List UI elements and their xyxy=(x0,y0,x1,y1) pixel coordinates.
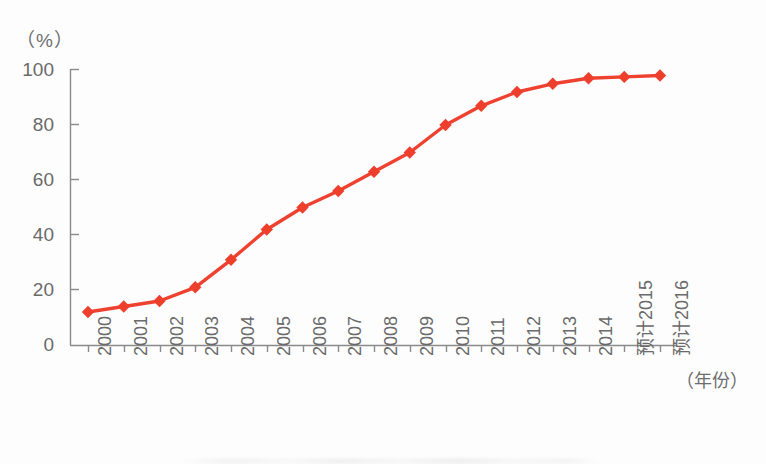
x-axis-tick-label: 2010 xyxy=(453,316,474,356)
page-edge-smudge xyxy=(180,458,600,464)
chart-root: （%） （年份） 100806040200 200020012002200320… xyxy=(0,0,766,464)
x-axis-tick-label: 2000 xyxy=(95,316,116,356)
x-axis-tick-label: 2009 xyxy=(417,316,438,356)
y-axis-tick-label: 20 xyxy=(8,279,54,301)
x-axis-tick-label: 2012 xyxy=(524,316,545,356)
chart-background xyxy=(0,0,766,464)
x-axis-tick-label: 2011 xyxy=(488,317,509,356)
x-axis-tick-label: 2005 xyxy=(274,316,295,356)
y-axis-tick-label: 100 xyxy=(8,59,54,81)
y-axis-tick-label: 80 xyxy=(8,114,54,136)
x-axis-tick-label: 2002 xyxy=(167,316,188,356)
x-axis-tick-label: 2008 xyxy=(381,316,402,356)
x-axis-tick-label: 2004 xyxy=(238,316,259,356)
x-axis-tick-label: 预计2016 xyxy=(667,280,693,356)
x-axis-tick-label: 2001 xyxy=(131,316,152,356)
x-axis-tick-label: 2013 xyxy=(560,316,581,356)
x-axis-tick-label: 2007 xyxy=(345,316,366,356)
x-axis-tick-label: 2014 xyxy=(596,316,617,356)
y-axis-tick-label: 40 xyxy=(8,224,54,246)
line-chart-canvas xyxy=(0,0,766,464)
y-axis-tick-label: 0 xyxy=(8,334,54,356)
y-axis-unit-label: （%） xyxy=(16,25,74,52)
y-axis-tick-label: 60 xyxy=(8,169,54,191)
x-axis-tick-label: 2006 xyxy=(310,316,331,356)
x-axis-title: （年份） xyxy=(676,366,748,392)
x-axis-tick-label: 预计2015 xyxy=(631,280,657,356)
x-axis-tick-label: 2003 xyxy=(202,316,223,356)
